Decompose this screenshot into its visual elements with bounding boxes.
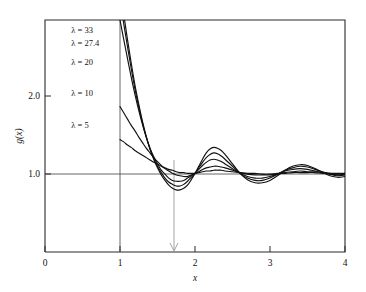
data-curves xyxy=(120,0,345,190)
xtick-label-2: 2 xyxy=(193,258,198,268)
xtick-label-3: 3 xyxy=(268,258,273,268)
y-axis-ticks xyxy=(45,96,51,174)
plot-frame xyxy=(45,20,345,252)
ytick-label-2-0: 2.0 xyxy=(28,91,40,101)
ytick-label-1-0: 1.0 xyxy=(28,169,40,179)
xtick-label-0: 0 xyxy=(43,258,48,268)
label-lambda-20: λ = 20 xyxy=(71,57,93,67)
reference-lines xyxy=(45,20,345,252)
xtick-label-1: 1 xyxy=(118,258,123,268)
label-lambda-10: λ = 10 xyxy=(71,88,93,98)
x-axis-ticks xyxy=(45,246,345,252)
series-labels: λ = 33λ = 27.4λ = 20λ = 10λ = 5 xyxy=(71,25,100,129)
figure-container: 0 1 2 3 4 1.0 2.0 x g(x) λ = 33λ = 27.4λ… xyxy=(0,0,366,292)
label-lambda-27-4: λ = 27.4 xyxy=(71,38,100,48)
x-axis-title: x xyxy=(192,273,198,283)
xtick-label-4: 4 xyxy=(343,258,348,268)
label-lambda-5: λ = 5 xyxy=(71,120,88,130)
label-lambda-33: λ = 33 xyxy=(71,25,93,35)
chart-plot: 0 1 2 3 4 1.0 2.0 x g(x) λ = 33λ = 27.4λ… xyxy=(0,0,366,292)
curve-lambda-33 xyxy=(120,0,345,190)
y-axis-title: g(x) xyxy=(14,128,25,143)
